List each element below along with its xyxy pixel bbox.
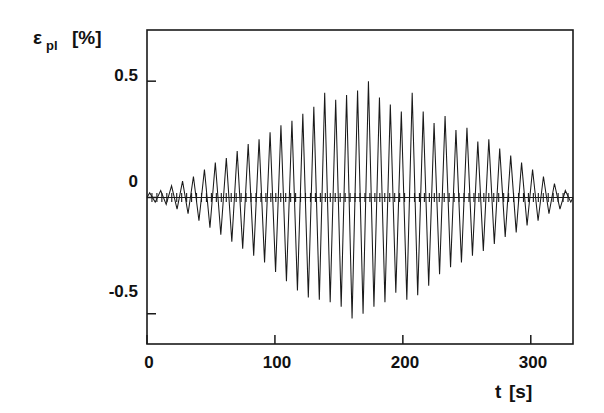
x-axis-title-symbol: t — [495, 381, 502, 402]
plastic-strain-chart: 0.5 0 -0.5 0 100 200 300 ε pl [%] t [s] — [0, 0, 604, 413]
y-axis-title-unit: [%] — [72, 27, 102, 48]
x-tick-label-0: 0 — [144, 353, 153, 372]
x-tick-label-3: 300 — [519, 353, 547, 372]
y-axis-title: ε pl [%] — [33, 27, 102, 53]
y-tick-label-0: 0.5 — [114, 66, 138, 85]
x-axis-title-unit: [s] — [509, 381, 532, 402]
y-axis-title-subscript: pl — [46, 38, 58, 53]
y-axis-title-symbol: ε — [33, 27, 42, 48]
figure-container: 0.5 0 -0.5 0 100 200 300 ε pl [%] t [s] — [0, 0, 604, 413]
y-tick-label-2: -0.5 — [109, 282, 138, 301]
x-tick-label-2: 200 — [391, 353, 419, 372]
x-axis-ticks — [147, 335, 531, 344]
x-tick-label-1: 100 — [263, 353, 291, 372]
x-axis-title: t [s] — [495, 381, 532, 402]
y-tick-label-1: 0 — [129, 172, 138, 191]
